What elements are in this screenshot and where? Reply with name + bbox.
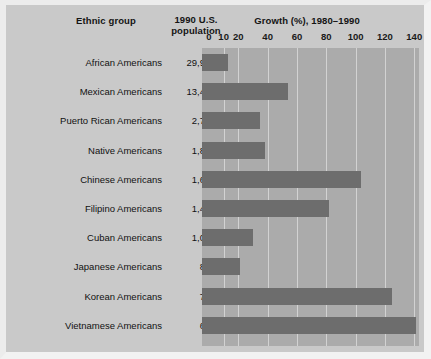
row-label-column: African Americans29,986,060Mexican Ameri… xyxy=(6,48,202,346)
x-tick-60: 60 xyxy=(292,31,303,42)
bar-row xyxy=(202,54,419,71)
bar-row xyxy=(202,317,419,334)
row-label-ethnic-group: African Americans xyxy=(12,54,162,71)
row-label-ethnic-group: Korean Americans xyxy=(12,288,162,305)
bar-row xyxy=(202,83,419,100)
bar-row xyxy=(202,258,419,275)
table-row: Cuban Americans1,043,932 xyxy=(6,229,202,246)
plot-area xyxy=(202,48,419,346)
table-row: Mexican Americans13,495,938 xyxy=(6,83,202,100)
table-row: Korean Americans798,849 xyxy=(6,288,202,305)
bar-filipino-americans xyxy=(202,200,329,217)
bar-row xyxy=(202,112,419,129)
row-label-ethnic-group: Mexican Americans xyxy=(12,83,162,100)
bar-mexican-americans xyxy=(202,83,288,100)
bar-row xyxy=(202,200,419,217)
bar-row xyxy=(202,229,419,246)
column-header-ethnic-group: Ethnic group xyxy=(50,15,162,26)
column-header-growth: Growth (%), 1980–1990 xyxy=(196,15,418,26)
bar-chinese-americans xyxy=(202,171,361,188)
x-tick-100: 100 xyxy=(348,31,364,42)
bar-puerto-rican-americans xyxy=(202,112,260,129)
row-label-ethnic-group: Puerto Rican Americans xyxy=(12,112,162,129)
x-tick-40: 40 xyxy=(262,31,273,42)
table-row: Japanese Americans847,562 xyxy=(6,258,202,275)
x-tick-120: 120 xyxy=(377,31,393,42)
x-tick-0: 0 xyxy=(206,31,211,42)
x-tick-80: 80 xyxy=(321,31,332,42)
row-label-ethnic-group: Filipino Americans xyxy=(12,200,162,217)
row-label-ethnic-group: Native Americans xyxy=(12,142,162,159)
row-label-ethnic-group: Chinese Americans xyxy=(12,171,162,188)
x-axis-tick-labels: 01020406080100120140 xyxy=(6,31,424,47)
row-label-ethnic-group: Cuban Americans xyxy=(12,229,162,246)
bar-row xyxy=(202,171,419,188)
chart-figure: Ethnic group 1990 U.S. population Growth… xyxy=(0,0,431,359)
bar-korean-americans xyxy=(202,288,392,305)
row-label-ethnic-group: Japanese Americans xyxy=(12,258,162,275)
table-row: Native Americans1,878,285 xyxy=(6,142,202,159)
chart-inner-panel: Ethnic group 1990 U.S. population Growth… xyxy=(6,5,424,352)
row-label-ethnic-group: Vietnamese Americans xyxy=(12,317,162,334)
bar-row xyxy=(202,288,419,305)
bar-vietnamese-americans xyxy=(202,317,416,334)
table-row: Chinese Americans1,645,472 xyxy=(6,171,202,188)
table-row: Filipino Americans1,406,770 xyxy=(6,200,202,217)
bar-japanese-americans xyxy=(202,258,240,275)
bar-cuban-americans xyxy=(202,229,253,246)
bar-african-americans xyxy=(202,54,228,71)
x-tick-10: 10 xyxy=(218,31,229,42)
table-row: African Americans29,986,060 xyxy=(6,54,202,71)
bar-row xyxy=(202,142,419,159)
bar-native-americans xyxy=(202,142,265,159)
x-tick-20: 20 xyxy=(233,31,244,42)
x-tick-140: 140 xyxy=(406,31,422,42)
table-row: Puerto Rican Americans2,727,754 xyxy=(6,112,202,129)
table-row: Vietnamese Americans614,547 xyxy=(6,317,202,334)
